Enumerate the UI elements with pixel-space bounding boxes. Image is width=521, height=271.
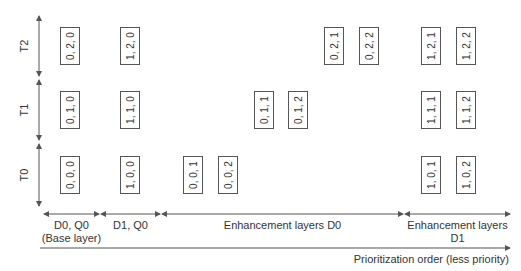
layer-box-label: 1, 0, 1	[426, 161, 437, 189]
segment-label-line1: D1, Q0	[113, 219, 148, 232]
segment-label: Enhancement layersD1	[407, 219, 507, 245]
layer-box: 0, 0, 2	[218, 156, 238, 194]
layer-box: 0, 1, 2	[288, 91, 308, 129]
layer-box: 1, 1, 1	[421, 91, 441, 129]
layer-box: 0, 2, 1	[324, 27, 344, 65]
row-label-t2: T2	[18, 40, 30, 53]
prioritization-label: Prioritization order (less priority)	[354, 253, 509, 265]
layer-box: 1, 2, 1	[421, 27, 441, 65]
layer-box-label: 0, 0, 1	[188, 161, 199, 189]
layer-box-label: 0, 2, 2	[364, 32, 375, 60]
layer-box-label: 1, 2, 2	[461, 32, 472, 60]
layer-box: 1, 2, 2	[456, 27, 476, 65]
segment-label-line1: Enhancement layers D0	[224, 219, 341, 232]
row-label-t1: T1	[18, 104, 30, 117]
layer-box: 0, 2, 2	[359, 27, 379, 65]
layer-box: 0, 1, 1	[254, 91, 274, 129]
segment-label: Enhancement layers D0	[224, 219, 341, 232]
layer-box-label: 1, 1, 1	[426, 96, 437, 124]
layer-box: 0, 0, 1	[183, 156, 203, 194]
segment-label: D0, Q0(Base layer)	[42, 219, 101, 245]
layer-box-label: 0, 1, 1	[259, 96, 270, 124]
layer-box: 0, 2, 0	[60, 27, 80, 65]
layer-box-label: 0, 0, 2	[223, 161, 234, 189]
layer-box-label: 0, 2, 0	[65, 32, 76, 60]
layer-box: 1, 1, 0	[120, 91, 140, 129]
layer-box-label: 0, 1, 2	[293, 96, 304, 124]
layer-box-label: 0, 0, 0	[65, 161, 76, 189]
layer-box-label: 0, 1, 0	[65, 96, 76, 124]
layer-box: 1, 1, 2	[456, 91, 476, 129]
layer-box-label: 0, 2, 1	[329, 32, 340, 60]
segment-label-line2: (Base layer)	[42, 232, 101, 245]
segment-label-line1: D0, Q0	[42, 219, 101, 232]
row-label-t0: T0	[18, 169, 30, 182]
layer-box: 1, 0, 0	[120, 156, 140, 194]
segment-label-line1: Enhancement layers	[407, 219, 507, 232]
layer-box-label: 1, 2, 0	[125, 32, 136, 60]
layer-box: 1, 0, 2	[456, 156, 476, 194]
layer-box: 1, 2, 0	[120, 27, 140, 65]
layer-box-label: 1, 1, 2	[461, 96, 472, 124]
layer-box: 0, 0, 0	[60, 156, 80, 194]
layer-box: 1, 0, 1	[421, 156, 441, 194]
layer-box-label: 1, 0, 0	[125, 161, 136, 189]
layer-box: 0, 1, 0	[60, 91, 80, 129]
layer-box-label: 1, 2, 1	[426, 32, 437, 60]
segment-label-line2: D1	[407, 232, 507, 245]
layer-box-label: 1, 1, 0	[125, 96, 136, 124]
layer-box-label: 1, 0, 2	[461, 161, 472, 189]
segment-label: D1, Q0	[113, 219, 148, 232]
